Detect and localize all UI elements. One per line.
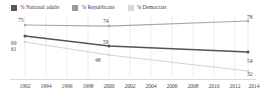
plot-area [0,14,265,78]
x-axis: 1992 1994 1996 1998 2000 2002 2004 2006 … [0,82,265,94]
x-tick-2012: 2012 [229,82,240,90]
point-label-republicans-2000: 74 [103,18,109,24]
x-tick-2004: 2004 [145,82,156,90]
series-line-republicans [24,20,250,28]
x-tick-2002: 2002 [124,82,135,90]
point-label-republicans-2014: 78 [247,14,253,20]
legend-item-national-adults[interactable]: % National adults [11,4,59,11]
legend-label-democrats: % Democrats [137,4,167,11]
legend-swatch-democrats [128,5,134,11]
legend-swatch-national-adults [11,5,17,11]
x-tick-2010: 2010 [208,82,219,90]
x-tick-2014: 2014 [248,82,259,90]
point-label-national-adults-2000: 59 [103,39,109,45]
chart-legend: % National adults % Republicans % Democr… [11,2,179,13]
legend-swatch-republicans [72,5,78,11]
series-line-national-adults [24,35,250,54]
point-label-democrats-2000: 48 [95,57,101,63]
x-tick-2000: 2000 [103,82,114,90]
point-label-republicans-1992: 75 [18,17,24,23]
legend-item-democrats[interactable]: % Democrats [128,4,167,11]
point-label-democrats-1992: 61 [11,46,17,52]
x-tick-1992: 1992 [19,82,30,90]
legend-label-republicans: % Republicans [81,4,114,11]
x-tick-1996: 1996 [61,82,72,90]
x-tick-2006: 2006 [166,82,177,90]
point-label-democrats-2014: 32 [247,71,253,77]
series-line-democrats [24,41,250,73]
legend-item-republicans[interactable]: % Republicans [72,4,114,11]
point-label-national-adults-2014: 54 [247,58,253,64]
x-tick-2008: 2008 [187,82,198,90]
legend-label-national-adults: % National adults [20,4,59,11]
line-chart: % National adults % Republicans % Democr… [0,0,265,95]
x-tick-1994: 1994 [40,82,51,90]
axis-rule [10,79,256,80]
x-tick-1998: 1998 [82,82,93,90]
